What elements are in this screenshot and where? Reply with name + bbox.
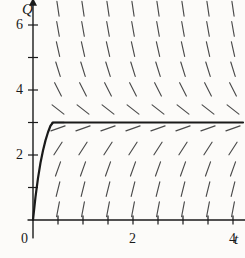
axes-group (28, 0, 245, 238)
y-tick-label: 4 (16, 83, 23, 97)
x-tick-label: 0 (21, 232, 28, 246)
x-tick-label: 4 (229, 232, 236, 246)
slope-field-group (51, 1, 240, 216)
y-tick-label: 6 (16, 18, 23, 32)
y-axis-label: Q (22, 2, 33, 17)
x-tick-label: 2 (129, 232, 136, 246)
solution-curve (33, 123, 243, 221)
direction-field-figure: Q t 024246 (0, 0, 245, 258)
plot-canvas (0, 0, 245, 258)
y-tick-label: 2 (16, 148, 23, 162)
